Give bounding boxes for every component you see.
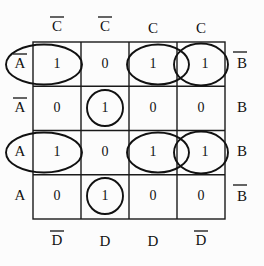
top-labels: C C C C — [50, 17, 206, 36]
top-label-col1: C — [50, 17, 64, 34]
bottom-label-col4-text: D — [196, 232, 207, 248]
cell-r2c1: 0 — [54, 100, 61, 115]
left-label-row2: A — [13, 98, 27, 115]
top-label-col2-text: C — [100, 18, 110, 34]
bottom-label-col1-text: D — [52, 232, 63, 248]
left-label-row2-text: A — [15, 99, 26, 115]
grid-lines — [33, 42, 225, 219]
bottom-label-col3: D — [148, 233, 159, 249]
top-label-col1-text: C — [52, 18, 62, 34]
bottom-label-col3-text: D — [148, 233, 159, 249]
bottom-label-col2-text: D — [100, 233, 111, 249]
right-label-row3: B — [237, 143, 247, 159]
bottom-label-col2: D — [100, 233, 111, 249]
kmap-canvas: C C C C D D D — [0, 0, 264, 266]
left-label-row1: A — [13, 54, 27, 71]
right-label-row1-text: B — [237, 55, 247, 71]
left-label-row4: A — [15, 187, 26, 203]
cell-r4c1: 0 — [54, 188, 61, 203]
top-label-col3-text: C — [148, 20, 158, 36]
top-label-col3: C — [148, 20, 158, 36]
bottom-label-col4: D — [194, 231, 208, 248]
cell-values: 1 0 1 1 0 1 0 0 1 0 1 1 0 1 0 0 — [54, 56, 209, 203]
left-label-row1-text: A — [15, 55, 26, 71]
right-label-row2-text: B — [237, 99, 247, 115]
cell-r1c3: 1 — [150, 56, 157, 71]
cell-r2c3: 0 — [150, 100, 157, 115]
right-label-row4: B — [233, 185, 247, 204]
cell-r4c3: 0 — [150, 188, 157, 203]
left-label-row4-text: A — [15, 187, 26, 203]
left-label-row3: A — [15, 143, 26, 159]
bottom-label-col1: D — [50, 231, 64, 248]
cell-r1c2: 0 — [102, 56, 109, 71]
cell-r1c1: 1 — [54, 56, 61, 71]
cell-r3c3: 1 — [150, 144, 157, 159]
top-label-col4: C — [196, 20, 206, 36]
cell-r3c1: 1 — [54, 144, 61, 159]
cell-r3c4: 1 — [202, 144, 209, 159]
right-label-row2: B — [237, 99, 247, 115]
right-label-row1: B — [233, 52, 247, 71]
group-loops — [6, 44, 228, 215]
cell-r3c2: 0 — [102, 144, 109, 159]
cell-r2c2: 1 — [102, 100, 109, 115]
right-label-row3-text: B — [237, 143, 247, 159]
right-labels: B B B B — [233, 52, 247, 204]
cell-r4c4: 0 — [198, 188, 205, 203]
top-label-col2: C — [98, 17, 112, 34]
right-label-row4-text: B — [237, 188, 247, 204]
top-label-col4-text: C — [196, 20, 206, 36]
cell-r4c2: 1 — [102, 188, 109, 203]
cell-r1c4: 1 — [202, 56, 209, 71]
cell-r2c4: 0 — [198, 100, 205, 115]
left-label-row3-text: A — [15, 143, 26, 159]
bottom-labels: D D D D — [50, 231, 208, 249]
karnaugh-map-diagram: C C C C D D D — [0, 0, 264, 266]
